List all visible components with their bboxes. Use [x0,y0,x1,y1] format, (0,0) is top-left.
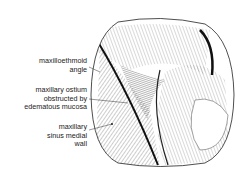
figure: maxilloethmoid angle maxillary ostium ob… [0,0,247,179]
label-maxillary-sinus-medial-wall: maxillary sinus medial wall [47,123,87,149]
endoscope-view [85,10,245,175]
label-maxilloethmoid-angle: maxilloethmoid angle [39,57,87,74]
label-maxillary-ostium: maxillary ostium obstructed by edematous… [24,86,87,112]
